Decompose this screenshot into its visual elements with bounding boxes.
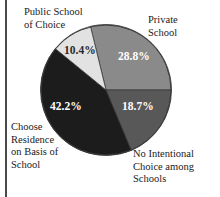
slice-value-no-intentional-choice: 18.7% (122, 100, 154, 112)
pie-svg (40, 24, 172, 156)
category-label-line: School (11, 159, 58, 172)
pie-chart-graphic (40, 24, 172, 156)
figure-left-border (5, 0, 7, 197)
category-label-line: on Basis of (11, 146, 58, 159)
category-label-line: No Intentional (133, 148, 194, 161)
category-label-line: Public School (24, 6, 83, 19)
category-label-no-intentional-choice: No Intentional Choice among Schools (133, 148, 194, 186)
category-label-line: Choose (11, 121, 58, 134)
category-label-private-school: Private School (148, 14, 178, 39)
slice-value-public-school-of-choice: 10.4% (64, 44, 96, 56)
category-label-line: of Choice (24, 19, 83, 32)
category-label-line: Private (148, 14, 178, 27)
category-label-line: Choice among (133, 161, 194, 174)
category-label-public-school-of-choice: Public School of Choice (24, 6, 83, 31)
category-label-line: Residence (11, 134, 58, 147)
category-label-choose-residence: Choose Residence on Basis of School (11, 121, 58, 171)
pie-chart-figure: 28.8% 18.7% 42.2% 10.4% Public School of… (0, 0, 220, 197)
category-label-line: Schools (133, 173, 194, 186)
slice-value-private-school: 28.8% (118, 50, 150, 62)
slice-value-choose-residence: 42.2% (50, 100, 82, 112)
category-label-line: School (148, 27, 178, 40)
